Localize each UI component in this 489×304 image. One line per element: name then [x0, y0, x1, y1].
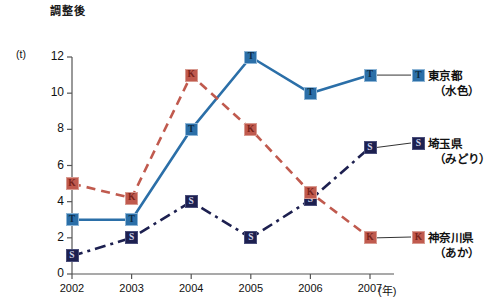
data-point-marker: T [304, 87, 317, 100]
x-tick-label: 2004 [168, 282, 214, 294]
x-axis-unit-label: (年) [378, 282, 396, 298]
data-point-marker: K [66, 177, 79, 190]
data-point-marker: T [364, 69, 377, 82]
data-point-marker: K [244, 123, 257, 136]
y-tick-label: 6 [38, 158, 64, 172]
x-tick-label: 2002 [49, 282, 95, 294]
legend-marker-swatch: K [412, 231, 425, 244]
legend-marker-swatch: S [412, 137, 425, 150]
y-tick-label: 0 [38, 266, 64, 280]
legend-label: 東京都 [428, 67, 462, 83]
series-lines [72, 57, 370, 256]
data-point-marker: K [304, 186, 317, 199]
y-tick-label: 2 [38, 230, 64, 244]
legend-label: 神奈川県 [428, 229, 473, 245]
data-point-marker: T [66, 213, 79, 226]
data-point-marker: T [244, 51, 257, 64]
legend-label: 埼玉県 [428, 135, 462, 151]
legend-sublabel: （みどり） [434, 150, 489, 166]
data-point-marker: S [364, 141, 377, 154]
legend-marker-swatch: T [412, 69, 425, 82]
y-tick-label: 10 [38, 85, 64, 99]
data-point-marker: K [185, 69, 198, 82]
data-point-marker: T [125, 213, 138, 226]
legend-leader-lines [377, 75, 411, 238]
y-tick-label: 12 [38, 49, 64, 63]
x-tick-label: 2005 [228, 282, 274, 294]
data-point-marker: S [244, 231, 257, 244]
legend-sublabel: （あか） [434, 244, 479, 260]
data-point-marker: S [185, 195, 198, 208]
x-tick-label: 2003 [109, 282, 155, 294]
data-point-marker: S [125, 231, 138, 244]
legend-sublabel: （水色） [434, 82, 479, 98]
data-point-marker: S [66, 249, 79, 262]
data-point-marker: T [185, 123, 198, 136]
chart-canvas: 調整後 (t) 024681012 2002200320042005200620… [0, 0, 489, 304]
x-tick-label: 2006 [287, 282, 333, 294]
data-point-marker: K [364, 231, 377, 244]
y-tick-label: 4 [38, 194, 64, 208]
y-tick-label: 8 [38, 121, 64, 135]
data-point-marker: K [125, 192, 138, 205]
